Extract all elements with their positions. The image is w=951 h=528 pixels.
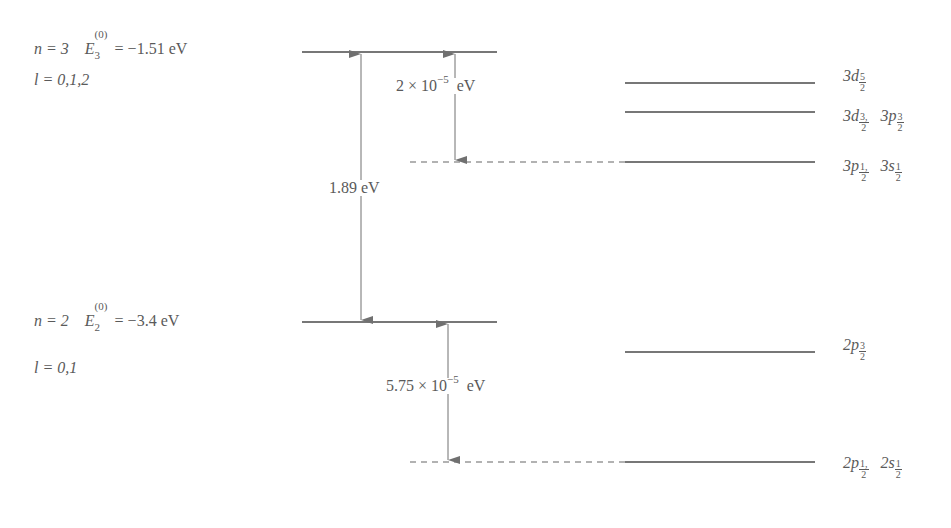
n3-energy-label: n = 3 E(0)3 = −1.51 eV bbox=[34, 41, 187, 57]
n3-quantum-number: n = 3 bbox=[34, 40, 69, 57]
n2-quantum-number: n = 2 bbox=[34, 312, 69, 329]
energy-symbol: E bbox=[85, 312, 95, 329]
energy-indices: (0)3 bbox=[95, 41, 111, 57]
n3-splitting-label: 2 × 10−5 eV bbox=[394, 78, 477, 94]
label-3p-1-2-3s-1-2: 3p1,2 3s12 bbox=[843, 158, 902, 183]
n2-energy-label: n = 2 E(0)2 = −3.4 eV bbox=[34, 313, 179, 329]
energy-symbol: E bbox=[85, 40, 95, 57]
label-3d-5-2: 3d52 bbox=[843, 68, 866, 93]
label-3d-3-2-3p-3-2: 3d3,2 3p32 bbox=[843, 108, 904, 133]
label-2p-1-2-2s-1-2: 2p1,2 2s12 bbox=[843, 455, 902, 480]
n2-energy-value: = −3.4 eV bbox=[115, 312, 180, 329]
label-2p-3-2: 2p32 bbox=[843, 337, 866, 362]
n3-l-values: l = 0,1,2 bbox=[34, 72, 89, 88]
n2-l-values: l = 0,1 bbox=[34, 360, 77, 376]
n2-splitting-label: 5.75 × 10−5 eV bbox=[384, 378, 487, 394]
transition-energy-label: 1.89 eV bbox=[327, 180, 382, 196]
n3-energy-value: = −1.51 eV bbox=[115, 40, 188, 57]
energy-indices: (0)2 bbox=[95, 313, 111, 329]
